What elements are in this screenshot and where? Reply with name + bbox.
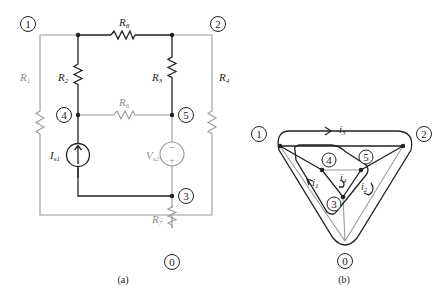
- svg-text:3: 3: [331, 198, 337, 210]
- node-label-4: 4: [57, 108, 72, 123]
- figure-canvas: − + 1 2 4 5 3 0 R8 R1 R2 R3 R4 R6 R7 Is1…: [0, 0, 448, 301]
- label-r1: R1: [19, 71, 30, 85]
- junction-dot: [170, 113, 174, 117]
- resistor-r4: [208, 108, 216, 136]
- svg-text:5: 5: [183, 109, 189, 121]
- junction-dot: [76, 33, 80, 37]
- label-i4: i4: [340, 172, 347, 185]
- svg-text:0: 0: [342, 255, 348, 267]
- circuit-a: − + 1 2 4 5 3 0 R8 R1 R2 R3 R4 R6 R7 Is1…: [19, 16, 230, 286]
- node-label-0: 0: [338, 254, 353, 269]
- svg-text:5: 5: [363, 151, 369, 163]
- label-r2: R2: [57, 71, 69, 85]
- node-label-4: 4: [322, 153, 336, 167]
- node-label-5: 5: [359, 150, 373, 164]
- junction-dot: [170, 194, 174, 198]
- node-label-1: 1: [252, 127, 267, 142]
- minus-sign: −: [169, 141, 175, 153]
- resistor-r6: [114, 111, 136, 119]
- node-label-3: 3: [327, 197, 341, 211]
- junction-dot: [76, 113, 80, 117]
- label-is1: Is1: [49, 149, 60, 163]
- svg-text:0: 0: [169, 256, 175, 268]
- node-label-0: 0: [165, 255, 180, 270]
- label-i2: i2: [361, 181, 368, 194]
- svg-text:1: 1: [25, 18, 31, 30]
- node-label-3: 3: [179, 189, 194, 204]
- caption-b: (b): [338, 274, 350, 286]
- svg-text:2: 2: [215, 18, 221, 30]
- outer-wire: [40, 35, 212, 215]
- graph-b: 1 2 4 5 3 0 i3 i1 i4 i2 (b): [252, 123, 432, 286]
- svg-text:1: 1: [256, 128, 262, 140]
- resistor-r1: [36, 108, 44, 136]
- junction-dot: [170, 33, 174, 37]
- node-label-2: 2: [211, 17, 226, 32]
- label-r8: R8: [118, 16, 130, 30]
- label-r3: R3: [151, 71, 163, 85]
- svg-text:4: 4: [326, 154, 332, 166]
- plus-sign: +: [169, 155, 174, 165]
- resistor-r3: [168, 55, 176, 80]
- bottom-wire: [78, 167, 172, 197]
- node-label-2: 2: [417, 127, 432, 142]
- resistor-r2: [74, 62, 82, 86]
- caption-a: (a): [117, 274, 128, 286]
- label-i1: i1: [312, 176, 319, 190]
- svg-text:2: 2: [421, 128, 427, 140]
- node-label-5: 5: [179, 108, 194, 123]
- label-i3: i3: [339, 123, 346, 137]
- svg-text:3: 3: [183, 190, 189, 202]
- label-vs2: Vs2: [146, 149, 159, 163]
- resistor-r8: [111, 31, 135, 39]
- node-label-1: 1: [21, 17, 36, 32]
- svg-text:4: 4: [61, 109, 67, 121]
- label-r4: R4: [218, 71, 230, 85]
- label-r6: R6: [118, 96, 130, 110]
